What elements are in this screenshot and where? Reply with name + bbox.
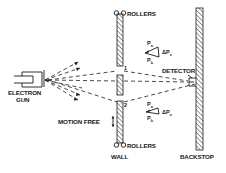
rollers-top-label: ROLLERS — [127, 10, 156, 17]
wall — [117, 14, 123, 143]
backstop — [196, 8, 203, 150]
dpx-bottom: ΔPx — [162, 109, 173, 117]
electron-gun — [14, 70, 44, 87]
motion-arrow-icon — [112, 116, 115, 128]
wall-label: WALL — [111, 153, 128, 160]
pb-top: Pb — [147, 57, 154, 65]
momentum-triangle-bottom — [146, 108, 159, 114]
backstop-label: BACKSTOP — [180, 153, 214, 160]
rollers-bottom-label: ROLLERS — [127, 142, 156, 149]
slit-1-label: 1 — [124, 65, 127, 71]
slit-2-label: 2 — [124, 102, 127, 108]
detector-label: DETECTOR — [162, 67, 196, 74]
pa-top: Pa — [147, 40, 154, 48]
motion-free-label: MOTION FREE — [58, 118, 100, 125]
dpx-top: ΔPx — [162, 49, 173, 57]
double-slit-diagram: ELECTRON GUN 1 2 ROLLERS ROLLE — [0, 0, 226, 173]
electron-spray — [45, 62, 82, 101]
pb-bottom: Pb — [147, 115, 154, 123]
momentum-triangle-top — [145, 47, 159, 57]
electron-gun-label-2: GUN — [16, 96, 30, 103]
pa-bottom: Pa — [147, 101, 154, 109]
electron-gun-label: ELECTRON — [8, 89, 42, 96]
